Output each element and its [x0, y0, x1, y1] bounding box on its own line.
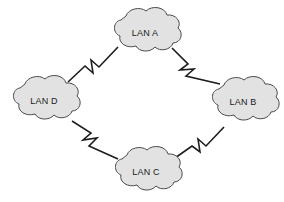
node-lan-b[interactable]: LAN B: [212, 77, 279, 121]
link-lan-d-to-lan-a[interactable]: [68, 47, 118, 82]
node-lan-a[interactable]: LAN A: [114, 8, 181, 52]
link-lan-d-to-lan-c[interactable]: [72, 121, 118, 159]
node-lan-d[interactable]: LAN D: [13, 76, 80, 120]
link-lan-c-to-lan-b[interactable]: [175, 127, 224, 158]
node-label-lan-c: LAN C: [132, 167, 160, 177]
node-label-lan-a: LAN A: [132, 28, 159, 38]
node-label-lan-b: LAN B: [229, 97, 256, 107]
diagram-svg-surface: LAN A LAN B LAN C LAN D: [0, 0, 284, 202]
link-lan-a-to-lan-b[interactable]: [172, 48, 220, 84]
network-diagram: LAN A LAN B LAN C LAN D: [0, 0, 284, 202]
node-label-lan-d: LAN D: [30, 96, 58, 106]
node-lan-c[interactable]: LAN C: [115, 147, 182, 191]
link-layer: [68, 47, 224, 159]
